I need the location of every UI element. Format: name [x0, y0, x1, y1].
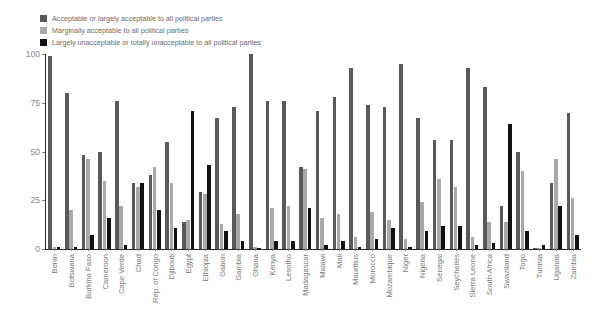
bar [266, 101, 270, 249]
x-tick-label: Djibouti [167, 254, 176, 279]
bar [86, 159, 90, 249]
bar [366, 105, 370, 249]
x-axis-labels: BeninBotswanaBurkina FasoCameroonCape Ve… [46, 252, 581, 329]
bar [303, 169, 307, 249]
x-label-cell: Cameroon [96, 252, 113, 329]
bar-group [196, 54, 213, 249]
bar [191, 111, 195, 249]
bar [182, 222, 186, 249]
x-tick-mark [138, 248, 139, 251]
bar [69, 210, 73, 249]
x-label-cell: Lesotho [280, 252, 297, 329]
x-tick-label: Senegal [434, 254, 443, 282]
x-tick-label: Togo [518, 254, 527, 270]
x-label-cell: Cape Verde [113, 252, 130, 329]
x-tick-label: Nigeria [418, 254, 427, 278]
x-tick-label: Gabon [217, 254, 226, 277]
bar [458, 226, 462, 249]
legend-label-acceptable: Acceptable or largely acceptable to all … [52, 14, 223, 23]
x-tick-label: Mali [334, 254, 343, 268]
bar [504, 222, 508, 249]
x-tick-mark [238, 248, 239, 251]
bar [450, 140, 454, 249]
bar [408, 247, 412, 249]
bar [136, 187, 140, 249]
legend-label-unacceptable: Largely unacceptable or totally unaccept… [52, 38, 261, 47]
legend-item-acceptable: Acceptable or largely acceptable to all … [40, 13, 261, 24]
x-tick-mark [71, 248, 72, 251]
plot-area: 0255075100 [45, 54, 581, 250]
bar [466, 68, 470, 249]
bar [492, 243, 496, 249]
x-tick-label: Chad [133, 254, 142, 272]
bar [333, 97, 337, 249]
bar [475, 245, 479, 249]
bar-group [464, 54, 481, 249]
bar [119, 206, 123, 249]
bar-group [146, 54, 163, 249]
x-tick-mark [305, 248, 306, 251]
bar-group [330, 54, 347, 249]
x-label-cell: Swaziland [497, 252, 514, 329]
x-tick-label: South Africa [485, 254, 494, 295]
bar-group [297, 54, 314, 249]
x-label-cell: Niger [397, 252, 414, 329]
x-tick-label: Zambia [568, 254, 577, 279]
bar-group [247, 54, 264, 249]
x-tick-label: Kenya [267, 254, 276, 276]
bar [358, 247, 362, 249]
x-label-cell: Chad [130, 252, 147, 329]
bar [74, 247, 78, 249]
bar-group [180, 54, 197, 249]
bar [203, 194, 207, 249]
x-label-cell: Gambia [230, 252, 247, 329]
bar [215, 118, 219, 249]
bar [454, 187, 458, 249]
x-tick-mark [88, 248, 89, 251]
x-tick-mark [255, 248, 256, 251]
x-label-cell: Botswana [63, 252, 80, 329]
bar [508, 124, 512, 249]
x-tick-label: Rep. of Congo [150, 254, 159, 303]
x-tick-label: Gambia [234, 254, 243, 281]
x-tick-label: Egypt [184, 254, 193, 273]
bar-group [548, 54, 565, 249]
x-tick-label: Tunisia [535, 254, 544, 278]
bar [575, 235, 579, 249]
bar [349, 68, 353, 249]
bar [337, 214, 341, 249]
x-tick-label: Morocco [368, 254, 377, 283]
legend-swatch-unacceptable [40, 39, 47, 46]
x-tick-mark [188, 248, 189, 251]
x-tick-label: Sierra Leone [468, 254, 477, 297]
x-label-cell: Rep. of Congo [146, 252, 163, 329]
bar-group [364, 54, 381, 249]
bar [115, 101, 119, 249]
bar [232, 107, 236, 249]
x-label-cell: Togo [514, 252, 531, 329]
bar [224, 231, 228, 249]
y-tick-mark [42, 54, 45, 55]
x-label-cell: Madagascar [297, 252, 314, 329]
x-tick-label: Cape Verde [117, 254, 126, 294]
bar [140, 183, 144, 249]
bar [174, 228, 178, 249]
bar [241, 241, 245, 249]
bar-group [397, 54, 414, 249]
bar [375, 239, 379, 249]
x-label-cell: Uganda [548, 252, 565, 329]
bar [308, 208, 312, 249]
bar-group [447, 54, 464, 249]
bar [324, 245, 328, 249]
x-label-cell: Kenya [263, 252, 280, 329]
x-tick-label: Niger [401, 254, 410, 272]
x-tick-label: Uganda [551, 254, 560, 281]
x-tick-label: Mozambique [384, 254, 393, 297]
legend-swatch-marginal [40, 27, 47, 34]
bar [170, 183, 174, 249]
bar-group [213, 54, 230, 249]
bar-group [130, 54, 147, 249]
y-tick-mark [42, 103, 45, 104]
bar [220, 224, 224, 249]
x-label-cell: Djibouti [163, 252, 180, 329]
